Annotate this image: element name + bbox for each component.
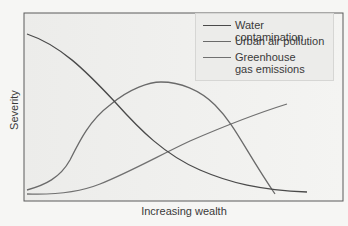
legend-label-line1: Greenhouse <box>235 51 296 63</box>
legend-label-line2: gas emissions <box>235 63 305 75</box>
legend-label: Greenhouse gas emissions <box>235 52 305 75</box>
legend-swatch-icon <box>203 25 231 26</box>
x-axis-label: Increasing wealth <box>0 205 348 217</box>
legend-item-urban-air-pollution: Urban air pollution <box>203 36 324 48</box>
y-axis-label: Severity <box>8 85 20 135</box>
legend-swatch-icon <box>203 41 231 42</box>
legend-item-greenhouse-gas-emissions: Greenhouse gas emissions <box>203 52 305 75</box>
legend: Water contamination Urban air pollution … <box>195 13 334 81</box>
legend-label: Urban air pollution <box>235 36 324 48</box>
legend-swatch-icon <box>203 57 231 58</box>
